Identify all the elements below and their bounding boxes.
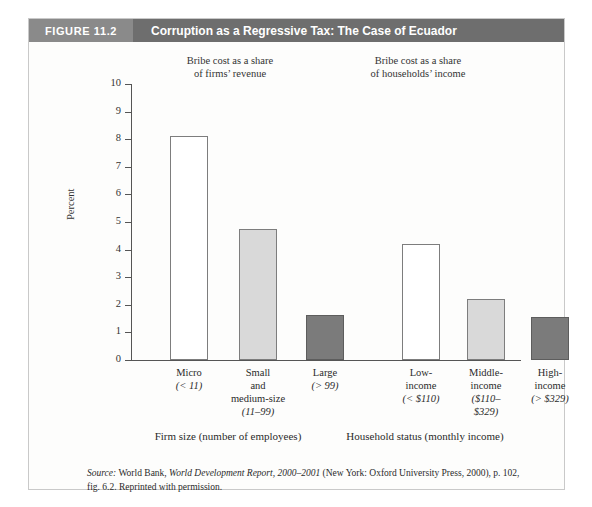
figure-header-band: FIGURE 11.2 Corruption as a Regressive T… <box>29 19 564 42</box>
y-axis-tick-label: 2 <box>116 298 121 309</box>
category-name: Micro <box>176 367 202 378</box>
bar <box>531 317 569 360</box>
y-axis-tick: 0 <box>125 360 132 361</box>
y-axis-tick-label: 6 <box>116 187 121 198</box>
y-axis-tick-label: 0 <box>116 353 121 364</box>
category-label: High- income (> $329) <box>504 366 592 405</box>
source-note: Source: World Bank, World Development Re… <box>87 467 527 495</box>
category-range: (> 99) <box>311 380 338 391</box>
y-axis-title: Percent <box>65 189 76 221</box>
category-range: (< $110) <box>403 393 440 404</box>
y-axis-tick-label: 5 <box>116 215 121 226</box>
y-axis-tick: 2 <box>125 305 132 306</box>
y-axis-tick: 5 <box>125 222 132 223</box>
x-axis-line <box>131 360 521 361</box>
y-axis-tick-label: 9 <box>116 105 121 116</box>
source-label: Source: <box>87 468 116 478</box>
y-axis-tick: 6 <box>125 194 132 195</box>
y-axis-tick: 8 <box>125 139 132 140</box>
category-name: Large <box>313 367 337 378</box>
category-name: High- income <box>535 367 566 391</box>
y-axis-tick-label: 1 <box>116 325 121 336</box>
bar <box>306 315 344 360</box>
panel-note-households: Bribe cost as a share of households’ inc… <box>329 54 507 81</box>
category-label: Large (> 99) <box>279 366 371 392</box>
y-axis-tick-label: 7 <box>116 160 121 171</box>
figure-number-box: FIGURE 11.2 <box>29 19 133 42</box>
category-name: Low- income <box>406 367 437 391</box>
category-range: (< 11) <box>176 380 202 391</box>
category-range: (11–99) <box>242 406 274 417</box>
y-axis-tick: 9 <box>125 112 132 113</box>
panel-note-firms: Bribe cost as a share of firms’ revenue <box>147 54 313 81</box>
bar <box>239 229 277 360</box>
y-axis-tick-label: 3 <box>116 270 121 281</box>
y-axis-tick: 10 <box>125 84 132 85</box>
category-range: ($110– $329) <box>472 393 501 417</box>
y-axis-tick-label: 4 <box>116 243 121 254</box>
group-axis-label-household-status: Household status (monthly income) <box>325 430 525 442</box>
category-name: Small and medium-size <box>231 367 285 404</box>
figure-frame: FIGURE 11.2 Corruption as a Regressive T… <box>28 18 565 490</box>
y-axis-tick: 3 <box>125 277 132 278</box>
category-name: Middle- income <box>469 367 503 391</box>
bar <box>170 136 208 360</box>
y-axis-tick: 7 <box>125 167 132 168</box>
bar <box>467 299 505 360</box>
source-publisher: World Bank, <box>116 468 169 478</box>
bar <box>402 244 440 360</box>
group-axis-label-firm-size: Firm size (number of employees) <box>133 430 323 442</box>
y-axis-tick-label: 10 <box>111 77 122 88</box>
chart-plot-area: Bribe cost as a share of firms’ revenue … <box>29 42 564 491</box>
figure-number-label: FIGURE 11.2 <box>45 25 117 37</box>
y-axis-tick-label: 8 <box>116 132 121 143</box>
figure-title: Corruption as a Regressive Tax: The Case… <box>151 24 457 38</box>
y-axis-tick: 1 <box>125 332 132 333</box>
category-range: (> $329) <box>531 393 569 404</box>
source-report-title: World Development Report, 2000–2001 <box>169 468 320 478</box>
y-axis-tick: 4 <box>125 250 132 251</box>
